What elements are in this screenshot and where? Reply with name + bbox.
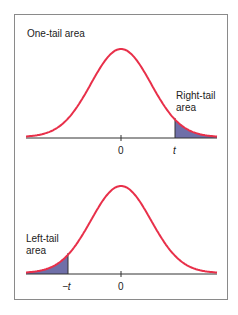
bottom-tick-label-zero: 0 [118, 281, 124, 292]
bottom-normal-curve [26, 186, 217, 273]
left-tail-label-line1: Left-tail [26, 233, 59, 245]
top-tick-label-zero: 0 [118, 145, 124, 156]
right-tail-label-line2: area [176, 102, 196, 114]
right-tail-label-line1: Right-tail [176, 90, 215, 102]
bottom-panel [26, 186, 217, 277]
top-tick-label-t: t [173, 145, 176, 156]
top-title: One-tail area [27, 28, 85, 40]
distribution-plots [0, 0, 238, 315]
bottom-tick-label-neg-t: −t [62, 281, 71, 292]
left-tail-label-line2: area [26, 245, 46, 257]
